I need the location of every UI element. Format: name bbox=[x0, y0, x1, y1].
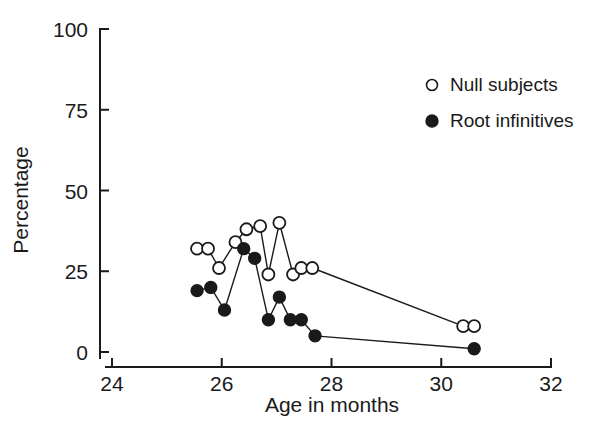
data-point bbox=[309, 330, 321, 342]
x-axis: 2426283032 bbox=[100, 358, 562, 395]
legend-item-label: Null subjects bbox=[450, 74, 558, 95]
legend-item-label: Root infinitives bbox=[450, 110, 574, 131]
data-point bbox=[218, 304, 230, 316]
data-point bbox=[213, 262, 225, 274]
x-axis-title: Age in months bbox=[265, 393, 399, 416]
data-point bbox=[238, 243, 250, 255]
data-point bbox=[306, 262, 318, 274]
x-axis-tick-label: 28 bbox=[320, 372, 343, 395]
x-axis-tick-label: 26 bbox=[210, 372, 233, 395]
data-point bbox=[273, 217, 285, 229]
y-axis-tick-label: 0 bbox=[76, 341, 88, 364]
data-point bbox=[284, 314, 296, 326]
legend-filled-circle-icon bbox=[426, 115, 438, 127]
data-series-group bbox=[191, 217, 480, 355]
x-axis-tick-label: 32 bbox=[539, 372, 562, 395]
data-point bbox=[295, 314, 307, 326]
chart-legend: Null subjectsRoot infinitives bbox=[426, 74, 574, 131]
data-point bbox=[468, 320, 480, 332]
data-point bbox=[205, 281, 217, 293]
y-axis-tick-label: 75 bbox=[65, 99, 88, 122]
data-point bbox=[262, 268, 274, 280]
data-point bbox=[262, 314, 274, 326]
series-line bbox=[197, 249, 474, 349]
x-axis-tick-label: 24 bbox=[100, 372, 124, 395]
y-axis: 0255075100 bbox=[53, 18, 109, 364]
data-point bbox=[240, 223, 252, 235]
data-series bbox=[191, 217, 480, 332]
chart-plot-area: 0255075100 2426283032 Null subjectsRoot … bbox=[0, 0, 596, 423]
y-axis-tick-label: 100 bbox=[53, 18, 88, 41]
chart-figure: 0255075100 2426283032 Null subjectsRoot … bbox=[0, 0, 596, 423]
data-point bbox=[202, 243, 214, 255]
data-series bbox=[191, 243, 480, 355]
data-point bbox=[468, 343, 480, 355]
data-point bbox=[191, 285, 203, 297]
y-axis-title: Percentage bbox=[9, 146, 32, 253]
data-point bbox=[249, 252, 261, 264]
y-axis-tick-label: 50 bbox=[65, 180, 88, 203]
data-point bbox=[254, 220, 266, 232]
y-axis-tick-label: 25 bbox=[65, 260, 88, 283]
legend-open-circle-icon bbox=[427, 80, 438, 91]
x-axis-tick-label: 30 bbox=[430, 372, 453, 395]
data-point bbox=[273, 291, 285, 303]
